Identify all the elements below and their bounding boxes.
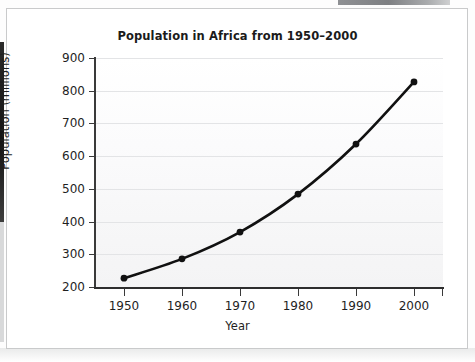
x-axis-tick-label: 1950 xyxy=(94,299,154,313)
data-point-marker xyxy=(295,191,302,198)
chart-screenshot: Population in Africa from 1950–2000 9008… xyxy=(0,0,475,362)
x-axis-tick-label: 1970 xyxy=(210,299,270,313)
y-axis-tick-label: 900 xyxy=(39,51,85,65)
y-axis-tick-label: 300 xyxy=(39,247,85,261)
data-point-marker xyxy=(353,141,360,148)
series-line xyxy=(124,82,414,278)
x-axis-tick-label: 2000 xyxy=(384,299,444,313)
scan-artifact-bottom-icon xyxy=(0,348,475,362)
data-point-marker xyxy=(237,229,244,236)
y-axis-tick-label: 700 xyxy=(39,116,85,130)
chart-title: Population in Africa from 1950–2000 xyxy=(0,29,475,43)
scan-artifact-top-icon xyxy=(338,0,450,5)
x-axis-tick xyxy=(240,289,241,296)
x-axis-tick xyxy=(124,289,125,296)
x-axis-tick-label: 1990 xyxy=(326,299,386,313)
data-point-marker xyxy=(121,275,128,282)
x-axis-tick xyxy=(442,289,443,296)
x-axis-tick-label: 1960 xyxy=(152,299,212,313)
data-point-marker xyxy=(179,255,186,262)
x-axis-tick-label: 1980 xyxy=(268,299,328,313)
plot-area xyxy=(95,58,443,287)
x-axis-tick xyxy=(414,289,415,296)
data-series-line xyxy=(95,58,443,287)
y-axis-tick-label: 500 xyxy=(39,182,85,196)
x-axis-line xyxy=(94,287,444,289)
x-axis-title: Year xyxy=(0,319,475,333)
y-axis-title: Population (millions) xyxy=(0,11,12,211)
y-axis-tick-label: 800 xyxy=(39,84,85,98)
x-axis-tick xyxy=(182,289,183,296)
data-point-marker xyxy=(411,78,418,85)
y-axis-tick-label: 200 xyxy=(39,280,85,294)
x-axis-tick xyxy=(298,289,299,296)
x-axis-tick xyxy=(356,289,357,296)
y-axis-tick-label: 600 xyxy=(39,149,85,163)
y-axis-tick-label: 400 xyxy=(39,215,85,229)
